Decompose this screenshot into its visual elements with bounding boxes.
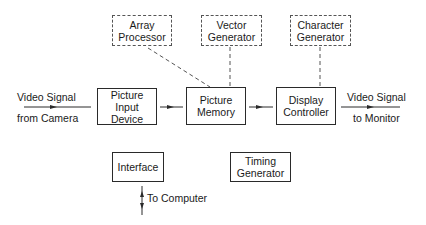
character-generator-label-2: Generator	[297, 31, 344, 43]
picture-input-device-label-2: Input	[115, 101, 138, 113]
vector-generator-label-2: Generator	[208, 31, 255, 43]
interface-box: Interface	[112, 152, 164, 182]
vector-generator-box: Vector Generator	[201, 15, 262, 46]
timing-generator-box: Timing Generator	[230, 152, 291, 182]
output-label-bottom: to Monitor	[353, 112, 400, 124]
memory-to-controller-arrow	[249, 105, 273, 109]
video-out-arrow	[341, 105, 400, 109]
vector-generator-label-1: Vector	[217, 19, 247, 31]
picture-input-device-label-1: Picture	[111, 89, 144, 101]
computer-bidirectional-arrow	[140, 186, 144, 215]
display-controller-label-1: Display	[289, 94, 323, 106]
picture-input-device-box: Picture Input Device	[97, 88, 157, 125]
picture-memory-label-2: Memory	[197, 106, 235, 118]
picture-memory-box: Picture Memory	[186, 87, 246, 125]
character-generator-label-1: Character	[297, 19, 343, 31]
array-processor-box: Array Processor	[112, 15, 172, 46]
timing-generator-label-1: Timing	[245, 155, 276, 167]
video-in-arrow	[24, 105, 91, 109]
display-controller-label-2: Controller	[283, 106, 329, 118]
array-to-memory-dashed	[148, 48, 210, 87]
picture-memory-label-1: Picture	[200, 94, 233, 106]
input-label-bottom: from Camera	[17, 112, 78, 124]
interface-label: Interface	[118, 161, 159, 173]
array-processor-label-2: Processor	[118, 31, 165, 43]
array-processor-label-1: Array	[129, 19, 154, 31]
picture-input-device-label-3: Device	[111, 113, 143, 125]
display-controller-box: Display Controller	[276, 87, 336, 125]
output-label-top: Video Signal	[347, 91, 406, 103]
to-computer-label: To Computer	[147, 192, 207, 204]
character-generator-box: Character Generator	[290, 15, 351, 46]
timing-generator-label-2: Generator	[237, 167, 284, 179]
input-to-memory-arrow	[160, 105, 183, 109]
input-label-top: Video Signal	[17, 91, 76, 103]
